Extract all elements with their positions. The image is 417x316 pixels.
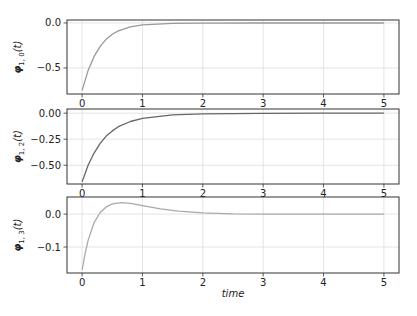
- y-axis-label: φ1, 3(t): [12, 219, 26, 252]
- x-tick-label: 3: [260, 98, 266, 109]
- data-line-phi_1_3: [82, 203, 384, 270]
- x-axis-label: time: [222, 288, 245, 299]
- y-tick-label: −0.50: [30, 160, 61, 171]
- x-tick-label: 2: [200, 98, 206, 109]
- y-axis-label: φ1, 0(t): [12, 41, 26, 74]
- subplot-phi-1-3: 0123450.0−0.1φ1, 3(t): [12, 197, 399, 288]
- x-tick-label: 5: [381, 277, 387, 288]
- figure: 0123450.0−0.5φ1, 0(t) 0123450.00−0.25−0.…: [0, 0, 417, 316]
- x-tick-label: 4: [320, 277, 326, 288]
- y-tick-label: 0.0: [45, 17, 61, 28]
- axes-frame: [67, 109, 399, 184]
- subplot-phi-1-0: 0123450.0−0.5φ1, 0(t): [12, 17, 399, 109]
- x-tick-label: 5: [381, 98, 387, 109]
- x-tick-label: 1: [139, 98, 145, 109]
- y-tick-label: −0.25: [30, 134, 61, 145]
- y-tick-label: −0.5: [37, 62, 61, 73]
- x-tick-label: 2: [200, 277, 206, 288]
- subplot-phi-1-2: 0123450.00−0.25−0.50φ1, 2(t): [12, 108, 399, 199]
- x-tick-label: 0: [79, 98, 85, 109]
- x-tick-label: 3: [260, 277, 266, 288]
- x-tick-label: 4: [320, 98, 326, 109]
- axes-frame: [67, 197, 399, 273]
- y-tick-label: 0.0: [45, 209, 61, 220]
- data-line-phi_1_2: [82, 113, 384, 182]
- y-tick-label: 0.00: [39, 108, 61, 119]
- y-axis-label: φ1, 2(t): [12, 130, 26, 163]
- x-tick-label: 1: [139, 277, 145, 288]
- data-line-phi_1_0: [82, 23, 384, 90]
- y-tick-label: −0.1: [37, 242, 61, 253]
- x-tick-label: 0: [79, 277, 85, 288]
